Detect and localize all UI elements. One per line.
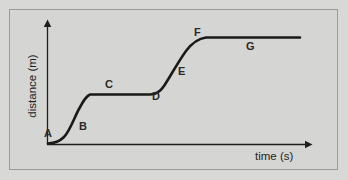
- point-label-d: D: [152, 91, 160, 102]
- distance-time-graph-figure: A B C D E F G time (s) distance (m): [0, 0, 348, 180]
- y-axis-label: distance (m): [26, 40, 38, 132]
- point-label-f: F: [194, 27, 201, 38]
- point-label-b: B: [79, 121, 87, 132]
- x-axis-label: time (s): [255, 150, 293, 162]
- point-label-e: E: [178, 66, 185, 77]
- plot-area: [0, 0, 348, 180]
- point-label-a: A: [44, 128, 52, 139]
- point-label-g: G: [246, 41, 255, 52]
- point-label-c: C: [105, 79, 113, 90]
